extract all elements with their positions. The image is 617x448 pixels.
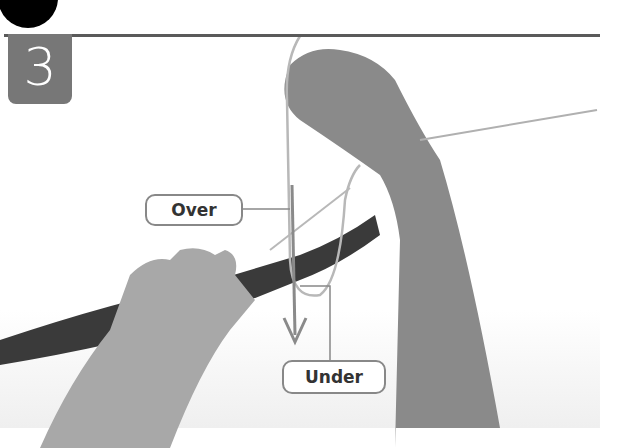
step-number-badge: 3 [8, 34, 72, 104]
over-callout: Over [145, 194, 243, 226]
header-rule [4, 34, 600, 37]
under-callout: Under [282, 360, 386, 394]
direction-arrow [292, 185, 295, 335]
cord-end [420, 110, 597, 140]
